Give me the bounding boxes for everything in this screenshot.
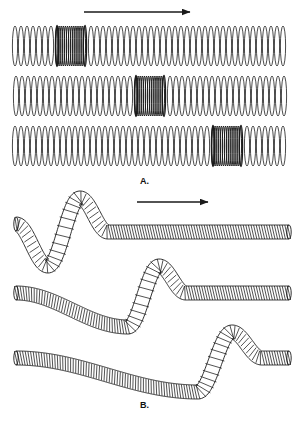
spring-coil (102, 126, 107, 166)
spring-coil (262, 126, 267, 166)
spring-coil (106, 26, 111, 66)
spring-coil (156, 126, 161, 166)
spring-coil (180, 126, 185, 166)
spring-coil (142, 26, 147, 66)
spring-coil (66, 126, 71, 166)
spring-coil (12, 126, 17, 166)
spring-coil (148, 26, 153, 66)
spring-coil (251, 76, 256, 116)
longitudinal-snapshot-1 (12, 25, 285, 66)
spring-tube-fill (16, 325, 289, 399)
spring-coil (85, 76, 90, 116)
spring-coil (120, 126, 125, 166)
spring-coil (100, 26, 105, 66)
spring-coil (192, 126, 197, 166)
panel-b-label: B. (140, 400, 149, 410)
spring-coil (268, 126, 273, 166)
spring-coil (274, 26, 279, 66)
spring-coil (280, 126, 285, 166)
spring-coil (115, 76, 120, 116)
spring-coil (220, 26, 225, 66)
spring-coil (90, 126, 95, 166)
spring-coil (250, 26, 255, 66)
spring-coil (178, 26, 183, 66)
spring-coil (79, 76, 84, 116)
spring-coil (173, 76, 178, 116)
spring-coil (88, 26, 93, 66)
spring-coil (19, 76, 24, 116)
spring-coil (274, 126, 279, 166)
spring-coil (269, 76, 274, 116)
panel-a-longitudinal-wave (12, 12, 286, 167)
spring-coil (190, 26, 195, 66)
spring-coil (256, 26, 261, 66)
spring-coil (94, 26, 99, 66)
spring-coil (275, 76, 280, 116)
spring-coil (144, 126, 149, 166)
spring-coil (42, 126, 47, 166)
spring-coil (24, 26, 29, 66)
spring-coil (162, 126, 167, 166)
spring-coil (167, 76, 172, 116)
longitudinal-snapshot-2 (13, 75, 286, 116)
spring-coil (244, 26, 249, 66)
spring-coil (124, 26, 129, 66)
spring-coil (232, 26, 237, 66)
spring-coil (166, 26, 171, 66)
spring-coil (127, 76, 132, 116)
spring-coil (184, 26, 189, 66)
spring-coil (18, 26, 23, 66)
panel-a-label: A. (140, 176, 149, 186)
spring-coil (109, 76, 114, 116)
spring-coil (179, 76, 184, 116)
spring-coil (108, 126, 113, 166)
spring-coil (73, 76, 78, 116)
spring-coil (126, 126, 131, 166)
spring-coil (18, 126, 23, 166)
spring-coil (221, 76, 226, 116)
spring-coil (136, 26, 141, 66)
wave-diagram-canvas (0, 0, 297, 426)
spring-coil (233, 76, 238, 116)
spring-coil (37, 76, 42, 116)
spring-coil (54, 126, 59, 166)
spring-coil (244, 126, 249, 166)
spring-coil (172, 26, 177, 66)
panel-b-transverse-wave (14, 191, 291, 399)
spring-coil (174, 126, 179, 166)
spring-coil (197, 76, 202, 116)
spring-coil (84, 126, 89, 166)
spring-coil (97, 76, 102, 116)
spring-coil (227, 76, 232, 116)
spring-coil (31, 76, 36, 116)
spring-coil (36, 126, 41, 166)
spring-coil (256, 126, 261, 166)
spring-coil (215, 76, 220, 116)
transverse-snapshot-3 (14, 325, 291, 399)
spring-coil (268, 26, 273, 66)
spring-coil (42, 26, 47, 66)
spring-coil (203, 76, 208, 116)
transverse-snapshot-1 (14, 191, 291, 273)
spring-coil (48, 126, 53, 166)
spring-coil (48, 26, 53, 66)
spring-coil (36, 26, 41, 66)
spring-coil (30, 26, 35, 66)
spring-coil (96, 126, 101, 166)
spring-coil (150, 126, 155, 166)
spring-coil (239, 76, 244, 116)
spring-coil (196, 26, 201, 66)
compression-edge (55, 25, 58, 66)
wave-diagram-figure: A. B. (0, 0, 297, 426)
spring-coil (185, 76, 190, 116)
spring-coil (30, 126, 35, 166)
spring-coil (238, 26, 243, 66)
spring-coil (154, 26, 159, 66)
spring-coil (61, 76, 66, 116)
spring-coil (114, 126, 119, 166)
spring-coil (67, 76, 72, 116)
spring-coil (130, 26, 135, 66)
spring-coil (49, 76, 54, 116)
spring-coil (138, 126, 143, 166)
spring-coil (250, 126, 255, 166)
